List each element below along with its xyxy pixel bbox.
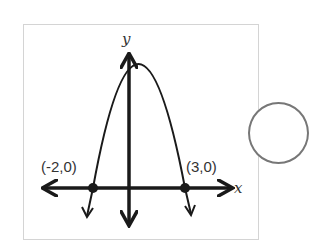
point-label-3-0: (3,0) xyxy=(186,158,217,175)
y-axis-label: y xyxy=(121,30,131,48)
point-3-0 xyxy=(180,183,190,193)
point-neg2-0 xyxy=(88,183,98,193)
answer-choice-circle[interactable] xyxy=(248,102,309,164)
point-label-neg2-0: (-2,0) xyxy=(41,158,77,175)
parabola-curve xyxy=(87,64,191,216)
x-axis-label: x xyxy=(234,179,243,197)
